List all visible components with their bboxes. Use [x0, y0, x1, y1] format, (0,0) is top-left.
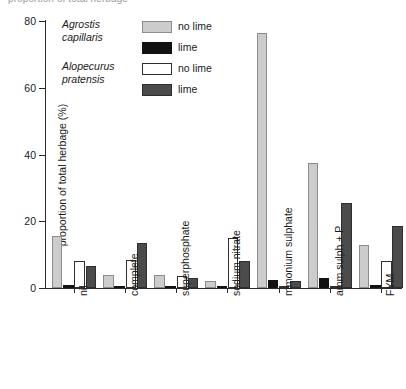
y-tick-mark	[39, 21, 45, 22]
x-tick-label: amm sulph + P	[334, 226, 345, 296]
y-tick-label: 60	[10, 83, 36, 93]
x-tick-label: superphosphate	[180, 221, 191, 296]
legend-item-agrostis-nolime: no lime	[142, 16, 212, 37]
bar	[103, 275, 114, 288]
legend-species-alopecurus-line1: Alopecurus	[62, 60, 140, 73]
y-tick-mark	[39, 288, 45, 289]
bar	[257, 33, 268, 288]
y-tick-label: 20	[10, 216, 36, 226]
legend-species-agrostis: Agrostis capillaris	[62, 18, 140, 43]
legend-swatch-black-icon	[142, 42, 172, 54]
legend-swatch-light-gray-icon	[142, 21, 172, 33]
legend-label-agrostis-lime: lime	[178, 42, 197, 53]
bar	[319, 278, 330, 288]
bar	[308, 163, 319, 288]
x-tick-mark	[279, 288, 280, 293]
legend-label-agrostis-nolime: no lime	[178, 21, 212, 32]
x-tick-mark	[330, 288, 331, 293]
legend-label-alopecurus-lime: lime	[178, 84, 197, 95]
x-axis-line	[45, 288, 402, 289]
legend-rows-alopecurus: no lime lime	[142, 58, 212, 100]
figure-chart: proportion of total herbage 020406080 pr…	[0, 0, 406, 389]
bar	[52, 236, 63, 288]
x-tick-label: mmonium sulphate	[283, 207, 294, 296]
y-tick-mark	[39, 221, 45, 222]
legend-group-agrostis: Agrostis capillaris no lime lime	[62, 16, 252, 58]
y-tick-label: 80	[10, 16, 36, 26]
bar	[114, 286, 125, 288]
x-tick-label: sodium nitrate	[231, 230, 242, 296]
x-tick-mark	[176, 288, 177, 293]
legend-swatch-dark-gray-icon	[142, 84, 172, 96]
bar	[154, 275, 165, 288]
legend-label-alopecurus-nolime: no lime	[178, 63, 212, 74]
bar	[359, 245, 370, 288]
x-tick-label: FYM	[385, 274, 396, 296]
legend-item-alopecurus-lime: lime	[142, 79, 212, 100]
x-tick-mark	[74, 288, 75, 293]
legend-swatch-white-icon	[142, 63, 172, 75]
bar	[74, 261, 85, 288]
bar	[370, 285, 381, 288]
clipped-top-caption: proportion of total herbage	[8, 0, 128, 4]
bar	[165, 286, 176, 288]
legend-species-alopecurus: Alopecurus pratensis	[62, 60, 140, 85]
y-tick-label: 40	[10, 150, 36, 160]
legend-species-agrostis-line2: capillaris	[62, 31, 140, 44]
x-tick-mark	[227, 288, 228, 293]
bar	[63, 285, 74, 288]
x-tick-mark	[125, 288, 126, 293]
legend: Agrostis capillaris no lime lime Alopecu…	[62, 16, 252, 100]
x-tick-mark	[381, 288, 382, 293]
bar	[205, 281, 216, 288]
x-tick-label: complete	[129, 253, 140, 296]
legend-group-alopecurus: Alopecurus pratensis no lime lime	[62, 58, 252, 100]
legend-item-agrostis-lime: lime	[142, 37, 212, 58]
legend-item-alopecurus-nolime: no lime	[142, 58, 212, 79]
legend-species-agrostis-line1: Agrostis	[62, 18, 140, 31]
bar	[217, 286, 228, 288]
bar	[268, 280, 279, 288]
legend-species-alopecurus-line2: pratensis	[62, 73, 140, 86]
y-tick-mark	[39, 88, 45, 89]
legend-rows-agrostis: no lime lime	[142, 16, 212, 58]
y-tick-label: 0	[10, 283, 36, 293]
y-tick-mark	[39, 155, 45, 156]
x-tick-label: nil	[78, 285, 89, 296]
